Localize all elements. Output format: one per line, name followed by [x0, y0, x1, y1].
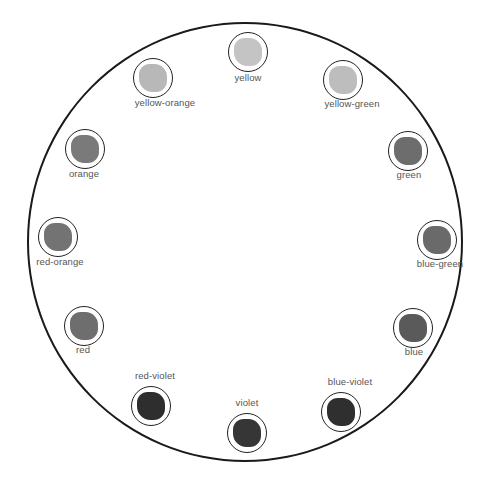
swatch-fill [394, 137, 422, 165]
swatch-yellow-orange [133, 58, 173, 98]
swatch-fill [329, 66, 357, 94]
swatch-red-orange [38, 217, 78, 257]
label-red-violet: red-violet [135, 370, 175, 381]
swatch-fill [71, 135, 99, 163]
wheel-outline [27, 22, 463, 462]
swatch-yellow-green [323, 60, 363, 100]
swatch-violet [227, 413, 267, 453]
swatch-fill [137, 392, 165, 420]
label-yellow-green: yellow-green [324, 98, 379, 109]
label-orange: orange [69, 168, 99, 179]
color-wheel-diagram: yellow yellow-green green blue-green blu… [0, 0, 489, 483]
label-violet: violet [236, 397, 259, 408]
swatch-blue-violet [321, 392, 361, 432]
swatch-fill [234, 38, 262, 66]
label-blue-violet: blue-violet [328, 376, 372, 387]
swatch-fill [139, 64, 167, 92]
label-green: green [397, 169, 422, 180]
swatch-green [388, 131, 428, 171]
swatch-red-violet [131, 386, 171, 426]
swatch-orange [65, 129, 105, 169]
swatch-blue [393, 308, 433, 348]
swatch-yellow [228, 32, 268, 72]
swatch-fill [70, 312, 98, 340]
label-blue-green: blue-green [417, 258, 463, 269]
label-red: red [76, 344, 90, 355]
label-red-orange: red-orange [36, 256, 83, 267]
swatch-fill [44, 223, 72, 251]
swatch-blue-green [417, 220, 457, 260]
label-yellow-orange: yellow-orange [135, 97, 195, 108]
swatch-fill [423, 226, 451, 254]
swatch-fill [399, 314, 427, 342]
swatch-fill [233, 419, 261, 447]
label-yellow: yellow [235, 72, 262, 83]
label-blue: blue [405, 346, 423, 357]
swatch-fill [327, 398, 355, 426]
swatch-red [64, 306, 104, 346]
